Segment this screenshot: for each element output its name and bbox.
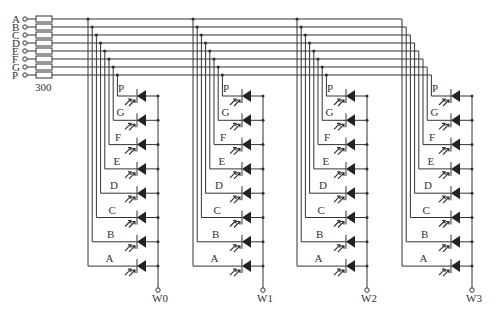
light-emission-icon: [439, 221, 449, 228]
light-emission-icon: [125, 196, 135, 203]
input-terminal-p: [23, 73, 27, 77]
led-diode-icon: [137, 114, 146, 126]
segment-label-b: B: [212, 228, 219, 240]
light-emission-icon: [230, 221, 240, 228]
led-diode-icon: [346, 163, 355, 175]
resistor-b: [36, 24, 52, 30]
digit-select-label-w2: W2: [361, 292, 377, 304]
segment-label-e: E: [219, 155, 226, 167]
light-emission-icon: [125, 245, 135, 252]
segment-label-e: E: [428, 155, 435, 167]
light-emission-icon: [334, 245, 344, 252]
input-terminal-a: [23, 17, 27, 21]
led-diode-icon: [242, 236, 251, 248]
led-diode-icon: [346, 114, 355, 126]
resistor-e: [36, 48, 52, 54]
input-terminal-f: [23, 57, 27, 61]
led-diode-icon: [346, 212, 355, 224]
light-emission-icon: [439, 269, 449, 276]
segment-label-f: F: [429, 131, 435, 143]
resistor-f: [36, 56, 52, 62]
segment-label-d: D: [215, 179, 223, 191]
digit-w3: [402, 19, 474, 292]
light-emission-icon: [230, 245, 240, 252]
light-emission-icon: [230, 148, 240, 155]
segment-label-c: C: [109, 204, 116, 216]
led-diode-icon: [346, 139, 355, 151]
led-diode-icon: [346, 236, 355, 248]
segment-label-f: F: [115, 131, 121, 143]
led-diode-icon: [451, 187, 460, 199]
resistor-p: [36, 72, 52, 78]
led-diode-icon: [346, 90, 355, 102]
segment-label-g: G: [222, 106, 230, 118]
led-diode-icon: [451, 163, 460, 175]
segment-label-e: E: [323, 155, 330, 167]
resistor-a: [36, 16, 52, 22]
light-emission-icon: [334, 99, 344, 106]
input-terminal-d: [23, 41, 27, 45]
light-emission-icon: [125, 172, 135, 179]
digit-select-label-w3: W3: [466, 292, 482, 304]
light-emission-icon: [125, 148, 135, 155]
segment-label-p: P: [223, 82, 229, 94]
input-terminal-c: [23, 33, 27, 37]
led-diode-icon: [451, 236, 460, 248]
light-emission-icon: [334, 148, 344, 155]
led-diode-icon: [451, 212, 460, 224]
segment-label-b: B: [316, 228, 323, 240]
input-terminal-e: [23, 49, 27, 53]
led-diode-icon: [451, 260, 460, 272]
led-diode-icon: [137, 260, 146, 272]
led-diode-icon: [242, 90, 251, 102]
led-diode-icon: [451, 114, 460, 126]
segment-label-a: A: [106, 252, 114, 264]
segment-label-a: A: [420, 252, 428, 264]
input-label-p: P: [12, 69, 18, 81]
input-terminal-g: [23, 65, 27, 69]
light-emission-icon: [439, 172, 449, 179]
light-emission-icon: [439, 123, 449, 130]
led-diode-icon: [242, 212, 251, 224]
segment-label-c: C: [318, 204, 325, 216]
led-diode-icon: [242, 139, 251, 151]
digit-select-label-w1: W1: [257, 292, 273, 304]
digit-select-label-w0: W0: [152, 292, 168, 304]
segment-label-g: G: [431, 106, 439, 118]
segment-label-c: C: [423, 204, 430, 216]
segment-label-g: G: [117, 106, 125, 118]
segment-label-p: P: [432, 82, 438, 94]
light-emission-icon: [439, 245, 449, 252]
led-diode-icon: [346, 187, 355, 199]
light-emission-icon: [230, 196, 240, 203]
resistor-c: [36, 32, 52, 38]
led-diode-icon: [346, 260, 355, 272]
segment-label-a: A: [211, 252, 219, 264]
input-terminal-b: [23, 25, 27, 29]
led-diode-icon: [137, 163, 146, 175]
light-emission-icon: [230, 99, 240, 106]
led-diode-icon: [137, 187, 146, 199]
light-emission-icon: [439, 148, 449, 155]
segment-label-p: P: [118, 82, 124, 94]
led-diode-icon: [242, 163, 251, 175]
segment-label-b: B: [421, 228, 428, 240]
segment-label-f: F: [220, 131, 226, 143]
light-emission-icon: [125, 269, 135, 276]
led-diode-icon: [242, 260, 251, 272]
light-emission-icon: [334, 269, 344, 276]
led-display-circuit: ABCDEFGP300PGFEDCBAW0PGFEDCBAW1PGFEDCBAW…: [0, 0, 499, 314]
light-emission-icon: [125, 221, 135, 228]
segment-label-e: E: [114, 155, 121, 167]
led-diode-icon: [451, 139, 460, 151]
led-diode-icon: [242, 187, 251, 199]
led-diode-icon: [137, 212, 146, 224]
light-emission-icon: [230, 123, 240, 130]
segment-label-d: D: [319, 179, 327, 191]
light-emission-icon: [334, 172, 344, 179]
segment-label-d: D: [424, 179, 432, 191]
light-emission-icon: [125, 99, 135, 106]
light-emission-icon: [230, 269, 240, 276]
light-emission-icon: [125, 123, 135, 130]
resistor-value-label: 300: [35, 81, 52, 93]
